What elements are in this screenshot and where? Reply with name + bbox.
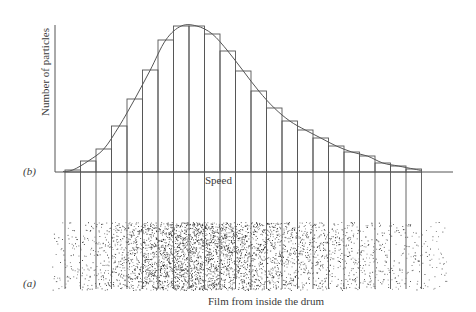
histogram-chart (0, 0, 476, 312)
histogram-bar (174, 26, 190, 172)
panel-label-a: (a) (23, 277, 36, 289)
histogram-bar (251, 91, 267, 172)
histogram-bar (344, 152, 360, 172)
histogram-bar (267, 108, 283, 172)
histogram-bar (313, 138, 329, 172)
histogram-bar (81, 161, 97, 172)
histogram-bar (143, 70, 159, 172)
histogram-bar (112, 126, 128, 172)
histogram-bar (236, 71, 252, 172)
distribution-curve (63, 25, 422, 172)
y-axis-label: Number of particles (39, 28, 51, 116)
panel-label-b: (b) (23, 165, 36, 177)
x-axis-label: Speed (205, 174, 232, 186)
histogram-bar (158, 40, 174, 172)
film-caption: Film from inside the drum (208, 295, 324, 307)
histogram-bar (96, 149, 112, 172)
histogram-bar (205, 34, 221, 172)
histogram-bar (189, 26, 205, 172)
histogram-bar (329, 146, 345, 172)
histogram-bar (282, 121, 298, 172)
histogram-bar (127, 99, 143, 172)
histogram-bar (298, 130, 314, 172)
histogram-bars (65, 26, 422, 172)
figure: Number of particles (b) (a) Speed Film f… (0, 0, 476, 312)
histogram-bar (220, 51, 236, 172)
